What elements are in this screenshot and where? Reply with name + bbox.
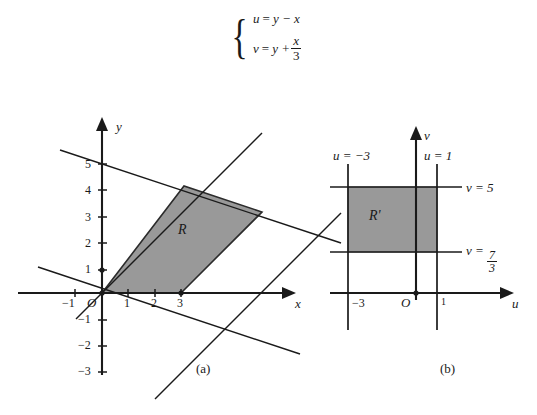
plot-b-utick-minus3: −3 (352, 296, 365, 311)
fraction-numerator: 7 (487, 249, 497, 262)
plot-b-label-v-fraction: 7 3 (487, 249, 497, 274)
plot-b-label-u-equals-1: u = 1 (424, 148, 452, 164)
plot-b-label-u-equals-minus-3: u = −3 (333, 148, 370, 164)
plot-b-origin-label: O (401, 295, 410, 311)
plot-b-origin-dot (413, 290, 418, 295)
plot-b-label-v-lhs: v = (466, 243, 484, 258)
caption-a: (a) (196, 361, 210, 377)
plot-b-region-label: R' (369, 208, 381, 224)
fraction-denominator: 3 (487, 262, 497, 274)
plot-b-label-v-equals-7-over-3: v = 7 3 (466, 243, 497, 274)
v-axis-arrowhead (410, 126, 422, 140)
plot-b-graphic (0, 0, 537, 415)
region-R-prime-shade (348, 187, 437, 252)
plot-b-u-axis-label: u (512, 296, 519, 312)
plot-b-v-axis-label: v (424, 128, 430, 144)
plot-b-label-v-equals-5: v = 5 (466, 180, 494, 196)
caption-b: (b) (440, 361, 455, 377)
plot-b-utick-1: 1 (441, 296, 446, 307)
